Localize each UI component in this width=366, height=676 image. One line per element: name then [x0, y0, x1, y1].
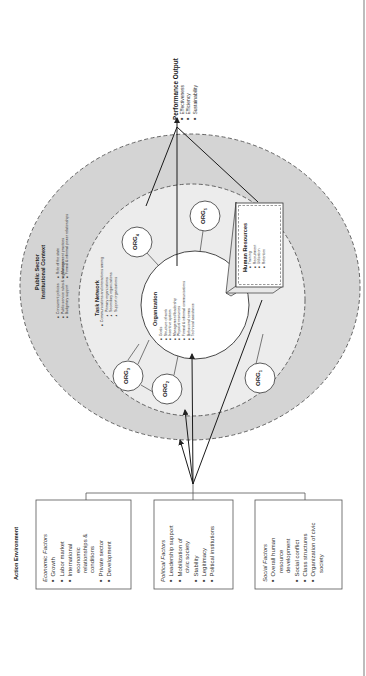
diagram-canvas: Performance Output Effectiveness Efficie…: [0, 0, 366, 676]
action-environment-title: Action Environment: [13, 527, 19, 580]
economic-item: Private sector: [97, 534, 105, 582]
political-item: Political institutions: [208, 525, 216, 582]
org4-label: ORG4: [132, 234, 140, 250]
social-heading: Social Factors: [262, 523, 269, 582]
political-item: Leadership support: [167, 525, 175, 582]
task-network-item: Communications and interactions among: [100, 257, 105, 326]
human-resources-block: Human Resources Training Recruitment Uti…: [242, 223, 266, 272]
social-item: Organization of civic: [309, 523, 317, 582]
performance-output: Performance Output Effectiveness Efficie…: [172, 58, 198, 120]
human-resources-item: Retention: [262, 223, 267, 272]
social-item: Social conflict: [293, 523, 301, 582]
economic-item: International: [66, 534, 74, 582]
public-sector-item: Formal & informal power relationships: [65, 214, 70, 278]
performance-output-title: Performance Output: [172, 58, 179, 120]
economic-item: Growth: [49, 534, 57, 582]
public-sector-title-line2: Institutional Context: [40, 232, 46, 312]
factor-bracket: [86, 484, 305, 500]
political-factors: Political Factors Leadership support Mob…: [160, 525, 217, 582]
economic-factors: Economic Factors Growth Labor market Int…: [42, 534, 114, 582]
social-item-cont: society: [318, 523, 325, 582]
economic-item-cont: relationships &: [82, 534, 89, 582]
economic-item-cont: conditions: [89, 534, 96, 582]
performance-item: Sustainability: [192, 58, 198, 120]
social-item: Overall human: [269, 523, 277, 582]
political-item-cont: civic society: [184, 525, 191, 582]
organization-block: Organization Goals Structure of work Inc…: [152, 281, 196, 340]
political-item: Legitimacy: [200, 525, 208, 582]
social-item-cont: development: [285, 523, 292, 582]
org1-label: ORG1: [255, 370, 263, 386]
political-item: Mobilization of: [176, 525, 184, 582]
task-network-subitem: Support organizations: [114, 257, 119, 326]
org3-label: ORG3: [123, 368, 131, 384]
political-heading: Political Factors: [160, 525, 167, 582]
economic-item: Development: [105, 534, 113, 582]
public-sector-title: Public Sector Institutional Context: [34, 232, 46, 312]
economic-heading: Economic Factors: [42, 534, 49, 582]
org2-label: ORG2: [162, 381, 170, 397]
social-item: Class structures: [301, 523, 309, 582]
economic-item-cont: economic: [75, 534, 82, 582]
org5-label: ORG5: [200, 208, 208, 224]
economic-item: Labor market: [58, 534, 66, 582]
organization-item: Formal & informal communications: [182, 281, 187, 340]
political-item: Stability: [192, 525, 200, 582]
page-edge-line: [363, 0, 365, 676]
social-factors: Social Factors Overall human resource de…: [262, 523, 325, 582]
task-network: Task Network Communications and interact…: [94, 257, 118, 326]
social-item-cont: resource: [278, 523, 285, 582]
organization-item: Technical assistance: [191, 281, 196, 340]
public-sector-col2: Role of the state Management practices F…: [56, 214, 70, 278]
organization-title: Organization: [152, 281, 158, 340]
